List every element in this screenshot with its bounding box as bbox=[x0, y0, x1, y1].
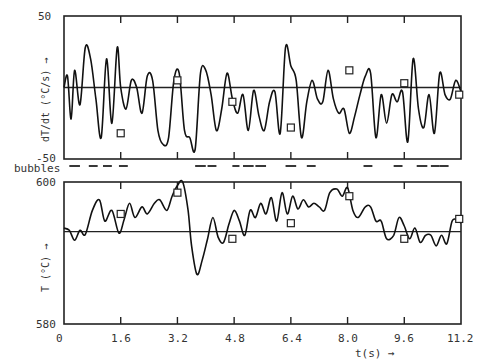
chart-canvas bbox=[0, 0, 482, 363]
x-tick-1.6: 1.6 bbox=[111, 332, 131, 345]
x-tick-8.0: 8.0 bbox=[338, 332, 358, 345]
top-panel-frame bbox=[64, 16, 463, 159]
top-y-max-label: 50 bbox=[38, 10, 51, 23]
x-tick-0: 0 bbox=[56, 332, 63, 345]
bottom-y-max-label: 600 bbox=[36, 176, 56, 189]
x-tick-11.2: 11.2 bbox=[447, 332, 474, 345]
top-y-axis-label: dT/dt (°C/s) → bbox=[40, 58, 51, 142]
bottom-y-axis-label: T (°C) → bbox=[40, 244, 51, 292]
x-axis-label: t(s) → bbox=[355, 347, 395, 360]
x-tick-9.6: 9.6 bbox=[394, 332, 414, 345]
bottom-panel-frame bbox=[64, 180, 463, 324]
x-tick-3.2: 3.2 bbox=[168, 332, 188, 345]
x-tick-4.8: 4.8 bbox=[225, 332, 245, 345]
bottom-y-min-label: 580 bbox=[36, 318, 56, 331]
bubbles-label: bubbles bbox=[14, 162, 60, 175]
x-tick-6.4: 6.4 bbox=[282, 332, 302, 345]
